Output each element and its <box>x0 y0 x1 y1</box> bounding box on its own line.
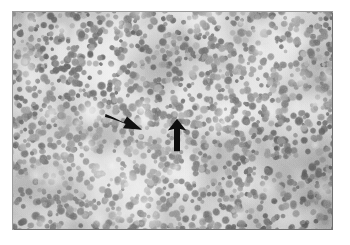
micrograph-tissue-image <box>13 12 332 229</box>
figure-page <box>0 0 350 245</box>
micrograph-plate <box>13 12 332 229</box>
